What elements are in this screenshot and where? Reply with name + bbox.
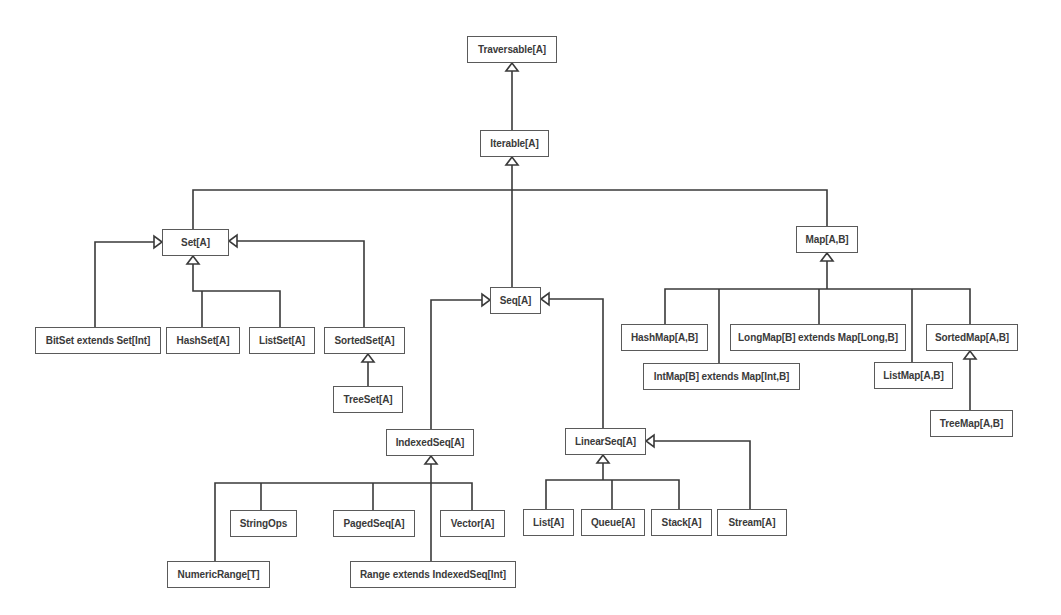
- class-label: List[A]: [533, 517, 564, 528]
- class-label: IntMap[B] extends Map[Int,B]: [654, 371, 790, 382]
- class-box-sortedmap: SortedMap[A,B]: [926, 324, 1018, 351]
- inheritance-arrow-icon: [821, 253, 833, 261]
- class-label: LongMap[B] extends Map[Long,B]: [738, 332, 898, 343]
- inheritance-arrow-icon: [154, 236, 162, 248]
- class-box-listset: ListSet[A]: [249, 327, 315, 354]
- class-label: LinearSeq[A]: [575, 436, 636, 447]
- class-label: StringOps: [240, 518, 287, 529]
- class-label: Stream[A]: [729, 517, 776, 528]
- class-label: Range extends IndexedSeq[Int]: [360, 569, 506, 580]
- class-label: Traversable[A]: [478, 44, 546, 55]
- connector-line: [549, 299, 603, 428]
- class-box-linearseq: LinearSeq[A]: [565, 428, 646, 455]
- connector-line: [193, 190, 827, 229]
- connector-line: [654, 441, 750, 509]
- class-label: HashMap[A,B]: [631, 332, 698, 343]
- class-label: Queue[A]: [591, 517, 635, 528]
- class-label: Seq[A]: [500, 295, 532, 306]
- class-box-hashmap: HashMap[A,B]: [621, 324, 708, 351]
- class-box-hashset: HashSet[A]: [166, 327, 240, 354]
- class-box-map: Map[A,B]: [796, 226, 858, 253]
- class-label: Vector[A]: [451, 518, 495, 529]
- class-label: NumericRange[T]: [178, 569, 260, 580]
- inheritance-arrow-icon: [964, 351, 976, 359]
- inheritance-arrow-icon: [482, 294, 490, 306]
- class-label: TreeMap[A,B]: [940, 418, 1003, 429]
- class-label: IndexedSeq[A]: [396, 437, 465, 448]
- class-label: ListSet[A]: [259, 335, 305, 346]
- class-label: TreeSet[A]: [343, 394, 392, 405]
- class-box-numericrange: NumericRange[T]: [167, 561, 270, 588]
- class-box-indexedseq: IndexedSeq[A]: [386, 429, 474, 456]
- class-box-sortedset: SortedSet[A]: [324, 327, 405, 354]
- class-label: Iterable[A]: [490, 138, 538, 149]
- class-box-vector: Vector[A]: [440, 510, 505, 537]
- class-box-intmap: IntMap[B] extends Map[Int,B]: [643, 363, 800, 390]
- inheritance-arrow-icon: [229, 235, 237, 247]
- class-box-listmap: ListMap[A,B]: [874, 362, 953, 389]
- inheritance-arrow-icon: [425, 456, 437, 464]
- connector-line: [665, 289, 970, 324]
- inheritance-arrow-icon: [362, 354, 374, 362]
- class-box-stringops: StringOps: [230, 510, 297, 537]
- inheritance-arrow-icon: [506, 157, 518, 165]
- class-box-seq: Seq[A]: [490, 287, 541, 314]
- connector-line: [237, 241, 364, 327]
- connector-line: [431, 300, 482, 429]
- class-box-stack: Stack[A]: [651, 509, 712, 536]
- class-label: Map[A,B]: [805, 234, 848, 245]
- class-box-longmap: LongMap[B] extends Map[Long,B]: [730, 324, 906, 351]
- class-box-pagedseq: PagedSeq[A]: [333, 510, 415, 537]
- class-label: BitSet extends Set[Int]: [46, 335, 150, 346]
- class-box-set: Set[A]: [162, 229, 229, 256]
- class-label: ListMap[A,B]: [883, 370, 943, 381]
- class-box-range: Range extends IndexedSeq[Int]: [350, 561, 516, 588]
- class-label: PagedSeq[A]: [343, 518, 404, 529]
- class-box-list: List[A]: [523, 509, 574, 536]
- inheritance-arrow-icon: [646, 435, 654, 447]
- inheritance-arrow-icon: [597, 455, 609, 463]
- inheritance-arrow-icon: [187, 256, 199, 264]
- class-label: Set[A]: [181, 237, 210, 248]
- class-label: Stack[A]: [662, 517, 702, 528]
- class-box-treemap: TreeMap[A,B]: [930, 410, 1013, 437]
- class-box-queue: Queue[A]: [581, 509, 645, 536]
- inheritance-arrow-icon: [541, 293, 549, 305]
- connector-line: [193, 264, 280, 327]
- class-box-bitset: BitSet extends Set[Int]: [35, 327, 161, 354]
- inheritance-arrow-icon: [506, 63, 518, 71]
- class-hierarchy-diagram: Traversable[A]Iterable[A]Set[A]Map[A,B]S…: [0, 0, 1061, 615]
- class-box-traversable: Traversable[A]: [467, 36, 557, 63]
- class-box-treeset: TreeSet[A]: [333, 386, 403, 413]
- class-label: SortedSet[A]: [335, 335, 395, 346]
- connector-line: [95, 242, 154, 327]
- class-label: HashSet[A]: [177, 335, 230, 346]
- class-box-stream: Stream[A]: [717, 509, 787, 536]
- class-label: SortedMap[A,B]: [935, 332, 1009, 343]
- class-box-iterable: Iterable[A]: [480, 130, 549, 157]
